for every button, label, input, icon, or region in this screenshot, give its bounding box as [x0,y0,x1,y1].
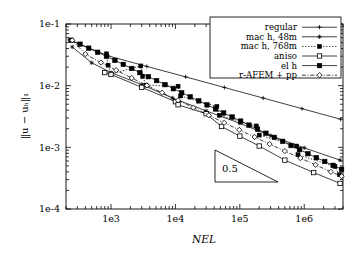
y-tick-label: 1e-3 [39,142,60,153]
x-tick-label: 1e6 [295,213,313,224]
chart-svg: 1e31e41e51e61e-11e-21e-31e-4 0.5 NEL ‖u … [0,0,355,253]
x-tick-label: 1e5 [231,213,249,224]
svg-text:‖u − uₕ‖₁: ‖u − uₕ‖₁ [19,93,31,139]
legend-label: mac h, 768m [241,41,297,51]
y-axis-title: ‖u − uₕ‖₁ [19,93,31,139]
legend-label: r-AFEM + pp [239,70,297,80]
legend-label: aniso [274,51,297,61]
legend-label: regular [265,22,298,32]
chart-legend: regularmac h, 48mmac h, 768manisoel hr-A… [210,17,341,80]
x-tick-label: 1e4 [167,213,185,224]
chart-figure: 1e31e41e51e61e-11e-21e-31e-4 0.5 NEL ‖u … [0,0,355,253]
x-tick-label: 1e3 [102,213,120,224]
legend-label: el h [281,61,298,71]
y-tick-label: 1e-2 [39,80,60,91]
x-axis-title: NEL [191,233,216,245]
slope-label: 0.5 [222,163,238,174]
y-tick-label: 1e-1 [39,18,60,29]
y-tick-label: 1e-4 [39,203,60,214]
legend-label: mac h, 48m [246,32,297,42]
